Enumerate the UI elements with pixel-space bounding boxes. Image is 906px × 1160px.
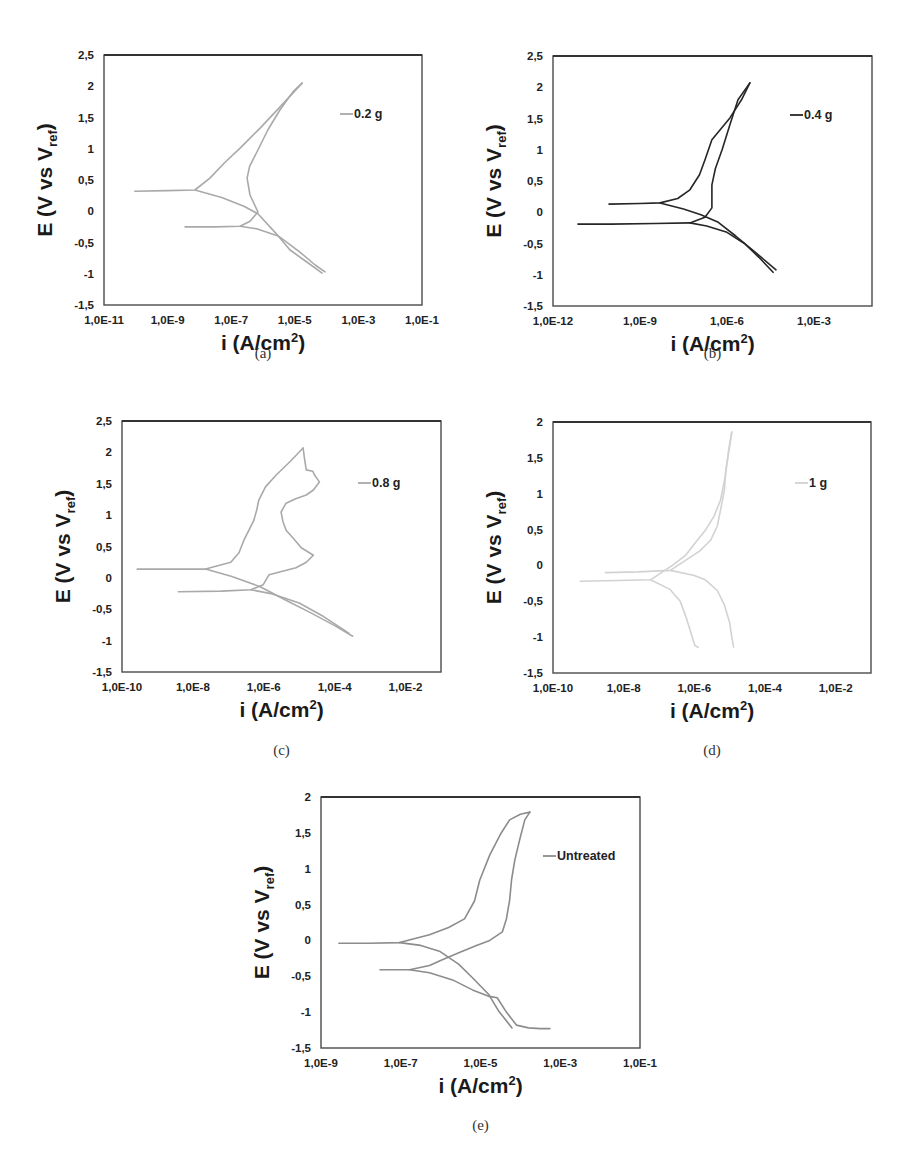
polarization-curve-segment (580, 432, 732, 581)
x-tick-label: 1,0E-7 (214, 314, 248, 326)
y-axis-title-main: E (V vs V (51, 513, 74, 603)
y-tick-label: 1 (88, 143, 95, 155)
x-axis-title-main: i (A/cm (670, 699, 740, 722)
polarization-curve-segment (195, 190, 322, 273)
y-axis-title-end: ) (33, 123, 56, 130)
y-tick-label: 0,5 (527, 175, 544, 187)
x-axis-title-end: ) (516, 1074, 523, 1097)
y-axis-title-subscript: ref (262, 872, 277, 889)
polarization-curve-segment (178, 448, 319, 592)
y-axis-title-subscript: ref (63, 496, 78, 513)
plot-area-frame (104, 55, 422, 305)
y-tick-label: -0,5 (92, 603, 112, 615)
polarization-curve-segment (605, 432, 732, 573)
y-tick-label: 1 (106, 509, 113, 521)
polarization-curve-segment (670, 570, 733, 647)
y-tick-label: -1 (102, 635, 113, 647)
y-tick-label: -1,5 (74, 299, 94, 311)
y-tick-label: 1,5 (295, 827, 312, 839)
x-axis-title-end: ) (317, 698, 324, 721)
y-tick-label: -1 (301, 1006, 312, 1018)
polarization-curve-segment (690, 223, 773, 272)
legend-label: 0.2 g (354, 107, 383, 121)
legend-label: 1 g (809, 476, 827, 490)
x-tick-label: 1,0E-4 (748, 682, 782, 694)
x-tick-label: 1,0E-9 (151, 314, 185, 326)
x-tick-label: 1,0E-10 (102, 681, 142, 693)
chart-panel-b: -1,5-1-0,500,511,522,51,0E-121,0E-91,0E-… (482, 50, 872, 362)
y-tick-label: 0 (88, 205, 94, 217)
y-tick-label: 1,5 (527, 452, 544, 464)
y-tick-label: 0,5 (527, 524, 544, 536)
x-tick-label: 1,0E-5 (278, 314, 312, 326)
y-axis-title-main: E (V vs V (482, 514, 505, 604)
panel-caption: (c) (273, 742, 290, 759)
x-tick-label: 1,0E-3 (797, 315, 831, 327)
x-axis-title-superscript: 2 (740, 698, 747, 713)
x-tick-label: 1,0E-8 (176, 681, 210, 693)
y-tick-label: 0,5 (96, 541, 113, 553)
x-axis-title-end: ) (747, 699, 754, 722)
y-tick-label: 1 (537, 144, 544, 156)
y-tick-label: 2,5 (78, 49, 95, 61)
x-axis-title-end: ) (298, 331, 305, 354)
x-axis-title-main: i (A/cm (438, 1074, 508, 1097)
y-tick-label: -1 (84, 268, 95, 280)
polarization-curve-segment (251, 590, 349, 633)
y-tick-label: -1 (533, 631, 544, 643)
legend-label: Untreated (557, 849, 615, 863)
x-axis-title-superscript: 2 (508, 1073, 515, 1088)
x-tick-label: 1,0E-12 (533, 315, 573, 327)
y-tick-label: -1 (533, 269, 544, 281)
y-tick-label: 0 (537, 206, 543, 218)
chart-panel-a: -1,5-1-0,500,511,522,51,0E-111,0E-91,0E-… (33, 49, 440, 362)
y-tick-label: 2 (88, 80, 94, 92)
x-tick-label: 1,0E-1 (623, 1057, 657, 1069)
y-axis-title-end: ) (482, 124, 505, 131)
x-tick-label: 1,0E-3 (341, 314, 375, 326)
y-tick-label: 0,5 (295, 899, 312, 911)
x-tick-label: 1,0E-7 (384, 1057, 418, 1069)
x-tick-label: 1,0E-6 (677, 682, 711, 694)
legend-label: 0.4 g (804, 108, 833, 122)
x-tick-label: 1,0E-10 (533, 682, 573, 694)
y-tick-label: -0,5 (523, 595, 543, 607)
x-tick-label: 1,0E-8 (607, 682, 641, 694)
x-tick-label: 1,0E-11 (84, 314, 124, 326)
x-tick-label: 1,0E-4 (318, 681, 352, 693)
y-tick-label: 2 (537, 416, 543, 428)
polarization-curve-segment (137, 448, 303, 569)
y-axis-title: E (V vs Vref) (482, 491, 509, 605)
polarization-curve-segment (380, 812, 530, 970)
panel-caption: (e) (472, 1117, 489, 1134)
x-axis-title-superscript: 2 (291, 330, 298, 345)
y-tick-label: 1,5 (96, 478, 113, 490)
polarization-curve-segment (339, 812, 530, 943)
y-axis-title-end: ) (250, 866, 273, 873)
x-axis-title-superscript: 2 (740, 331, 747, 346)
x-tick-label: 1,0E-1 (405, 314, 439, 326)
y-tick-label: 2 (305, 791, 311, 803)
chart-panel-e: -1,5-1-0,500,511,521,0E-91,0E-71,0E-51,0… (250, 791, 658, 1134)
legend: 0.8 g (358, 476, 401, 490)
polarization-curve-segment (651, 580, 699, 647)
polarization-curve-segment (578, 83, 750, 224)
y-axis-title-main: E (V vs V (33, 147, 56, 237)
y-tick-label: -0,5 (74, 237, 94, 249)
polarization-curve-segment (410, 970, 550, 1029)
y-axis-title-subscript: ref (494, 497, 509, 514)
y-axis-title: E (V vs Vref) (51, 490, 78, 604)
plot-area-frame (553, 422, 871, 673)
x-axis-title: i (A/cm2) (239, 697, 323, 721)
panel-caption: (b) (704, 345, 722, 362)
y-tick-label: 1,5 (527, 113, 544, 125)
x-axis-title-end: ) (748, 332, 755, 355)
y-tick-label: -1,5 (291, 1042, 311, 1054)
y-tick-label: -0,5 (523, 238, 543, 250)
y-tick-label: 0,5 (78, 174, 95, 186)
x-tick-label: 1,0E-6 (710, 315, 744, 327)
y-axis-title: E (V vs Vref) (33, 123, 60, 237)
x-tick-label: 1,0E-2 (819, 682, 853, 694)
legend-label: 0.8 g (372, 476, 401, 490)
chart-panel-c: -1,5-1-0,500,511,522,51,0E-101,0E-81,0E-… (51, 415, 441, 759)
